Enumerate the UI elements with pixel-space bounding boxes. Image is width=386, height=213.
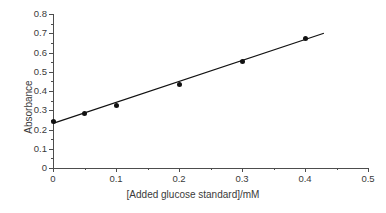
y-tick-label: 0.4 bbox=[34, 86, 47, 96]
x-minor-tick bbox=[85, 168, 86, 170]
plot-area: 00.10.20.30.40.50.60.70.8 00.10.20.30.40… bbox=[53, 14, 368, 168]
x-tick-label: 0.1 bbox=[109, 174, 122, 184]
y-tick-label: 0.1 bbox=[34, 144, 47, 154]
x-tick bbox=[53, 168, 54, 172]
y-tick-label: 0.2 bbox=[34, 125, 47, 135]
x-axis-title: [Added glucose standard]/mM bbox=[0, 189, 386, 200]
x-minor-tick bbox=[211, 168, 212, 170]
x-tick bbox=[305, 168, 306, 172]
y-axis-title: Absorbance bbox=[23, 80, 34, 133]
data-point bbox=[51, 119, 56, 124]
x-tick-label: 0 bbox=[50, 174, 55, 184]
y-tick-label: 0 bbox=[42, 163, 47, 173]
x-tick bbox=[242, 168, 243, 172]
data-point bbox=[82, 111, 87, 116]
y-tick-label: 0.3 bbox=[34, 105, 47, 115]
x-tick-label: 0.4 bbox=[298, 174, 311, 184]
x-tick-label: 0.2 bbox=[172, 174, 185, 184]
y-tick-label: 0.8 bbox=[34, 9, 47, 19]
absorbance-calibration-chart: 00.10.20.30.40.50.60.70.8 00.10.20.30.40… bbox=[0, 0, 386, 213]
data-points-layer bbox=[53, 14, 368, 168]
x-minor-tick bbox=[337, 168, 338, 170]
x-minor-tick bbox=[148, 168, 149, 170]
x-tick-label: 0.5 bbox=[361, 174, 374, 184]
x-tick bbox=[368, 168, 369, 172]
data-point bbox=[240, 59, 245, 64]
data-point bbox=[114, 103, 119, 108]
data-point bbox=[177, 82, 182, 87]
y-tick-label: 0.5 bbox=[34, 67, 47, 77]
data-point bbox=[303, 36, 308, 41]
x-tick bbox=[179, 168, 180, 172]
x-minor-tick bbox=[274, 168, 275, 170]
y-tick-label: 0.6 bbox=[34, 48, 47, 58]
y-tick-label: 0.7 bbox=[34, 28, 47, 38]
x-tick bbox=[116, 168, 117, 172]
x-tick-label: 0.3 bbox=[235, 174, 248, 184]
